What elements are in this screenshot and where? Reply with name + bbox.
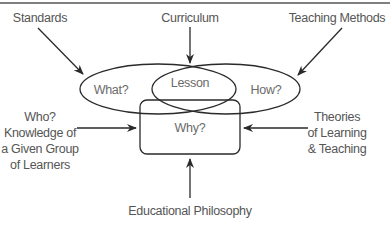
- who-label-line-4: of Learners: [10, 158, 70, 172]
- theories-label-line-1: Theories: [314, 110, 360, 124]
- lesson-planning-diagram: Standards Curriculum Teaching Methods Wh…: [0, 0, 390, 228]
- lesson-label: Lesson: [171, 76, 210, 90]
- what-label: What?: [94, 83, 129, 97]
- curriculum-label: Curriculum: [161, 11, 218, 25]
- theories-label-line-3: & Teaching: [308, 142, 367, 156]
- who-label-line-3: a Given Group: [1, 142, 79, 156]
- teaching-methods-label: Teaching Methods: [289, 11, 386, 25]
- why-label: Why?: [175, 121, 206, 135]
- standards-label: Standards: [13, 11, 67, 25]
- who-label-line-1: Who?: [24, 110, 56, 124]
- educational-philosophy-label: Educational Philosophy: [128, 204, 252, 218]
- how-label: How?: [251, 83, 282, 97]
- diagram-svg: Standards Curriculum Teaching Methods Wh…: [0, 0, 390, 228]
- who-label-line-2: Knowledge of: [4, 126, 77, 140]
- standards-arrow: [38, 28, 83, 74]
- teaching-methods-arrow: [298, 28, 342, 75]
- theories-label-line-2: of Learning: [307, 126, 367, 140]
